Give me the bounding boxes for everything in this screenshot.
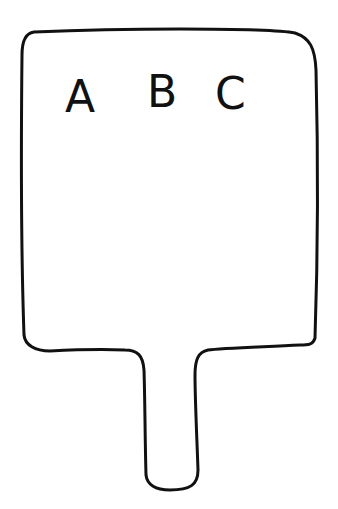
- letter-a: A: [65, 75, 95, 119]
- letter-b: B: [147, 70, 177, 114]
- letter-c: C: [215, 72, 246, 116]
